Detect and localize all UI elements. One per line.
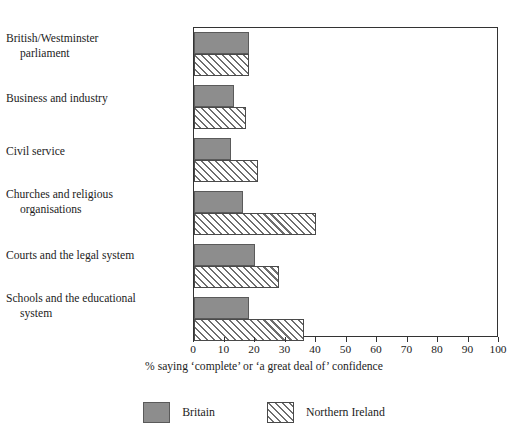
x-tick-label-0: 0 bbox=[190, 343, 196, 355]
bar-britain-4 bbox=[194, 244, 255, 266]
category-label-0-line1: British/Westminster bbox=[6, 32, 98, 45]
bar-chart: British/Westminster parliament Business … bbox=[0, 0, 528, 448]
category-label-0: British/Westminster parliament bbox=[6, 31, 178, 61]
x-tick-label-70: 70 bbox=[401, 343, 412, 355]
x-axis-title: % saying ‘complete’ or ‘a great deal of’… bbox=[0, 360, 528, 373]
category-label-3-line1: Churches and religious bbox=[6, 188, 113, 201]
category-label-0-line2: parliament bbox=[6, 46, 178, 61]
x-tick-label-100: 100 bbox=[489, 343, 506, 355]
x-tick-mark-100 bbox=[498, 337, 499, 342]
legend-item-britain: Britain bbox=[143, 402, 215, 423]
bars-layer bbox=[194, 28, 497, 336]
x-tick-label-30: 30 bbox=[279, 343, 290, 355]
category-label-4: Courts and the legal system bbox=[6, 248, 178, 263]
bar-northern-ireland-1 bbox=[194, 107, 246, 129]
category-label-3-line2: organisations bbox=[6, 202, 178, 217]
x-tick-mark-60 bbox=[376, 337, 377, 342]
x-tick-mark-10 bbox=[224, 337, 225, 342]
x-tick-mark-40 bbox=[315, 337, 316, 342]
bar-britain-1 bbox=[194, 85, 234, 107]
x-tick-label-90: 90 bbox=[462, 343, 473, 355]
category-label-1: Business and industry bbox=[6, 91, 178, 106]
x-tick-mark-50 bbox=[346, 337, 347, 342]
x-tick-mark-70 bbox=[407, 337, 408, 342]
x-tick-mark-80 bbox=[437, 337, 438, 342]
legend-item-northern-ireland: Northern Ireland bbox=[267, 402, 385, 423]
x-tick-mark-20 bbox=[254, 337, 255, 342]
category-label-5-line2: system bbox=[6, 306, 178, 321]
category-label-2: Civil service bbox=[6, 144, 178, 159]
x-tick-label-60: 60 bbox=[370, 343, 381, 355]
bar-britain-0 bbox=[194, 32, 249, 54]
x-tick-mark-30 bbox=[285, 337, 286, 342]
category-label-2-line1: Civil service bbox=[6, 145, 65, 158]
chart-legend: Britain Northern Ireland bbox=[0, 402, 528, 423]
bar-northern-ireland-4 bbox=[194, 266, 279, 288]
bar-britain-2 bbox=[194, 138, 231, 160]
solid-grey-swatch-icon bbox=[143, 402, 170, 423]
category-label-5: Schools and the educational system bbox=[6, 291, 178, 321]
category-axis-labels: British/Westminster parliament Business … bbox=[0, 27, 186, 337]
x-tick-label-20: 20 bbox=[248, 343, 259, 355]
hatched-swatch-icon bbox=[267, 402, 294, 423]
x-tick-label-50: 50 bbox=[340, 343, 351, 355]
x-tick-mark-0 bbox=[193, 337, 194, 342]
bar-northern-ireland-0 bbox=[194, 54, 249, 76]
x-tick-label-10: 10 bbox=[218, 343, 229, 355]
category-label-5-line1: Schools and the educational bbox=[6, 292, 136, 305]
category-label-4-line1: Courts and the legal system bbox=[6, 249, 134, 262]
x-tick-mark-90 bbox=[468, 337, 469, 342]
plot-area bbox=[193, 27, 498, 337]
x-tick-label-80: 80 bbox=[431, 343, 442, 355]
bar-britain-5 bbox=[194, 297, 249, 319]
legend-label-northern-ireland: Northern Ireland bbox=[306, 405, 385, 420]
bar-britain-3 bbox=[194, 191, 243, 213]
bar-northern-ireland-3 bbox=[194, 213, 316, 235]
legend-label-britain: Britain bbox=[182, 405, 215, 420]
x-tick-label-40: 40 bbox=[309, 343, 320, 355]
category-label-3: Churches and religious organisations bbox=[6, 187, 178, 217]
bar-northern-ireland-2 bbox=[194, 160, 258, 182]
category-label-1-line1: Business and industry bbox=[6, 92, 108, 105]
